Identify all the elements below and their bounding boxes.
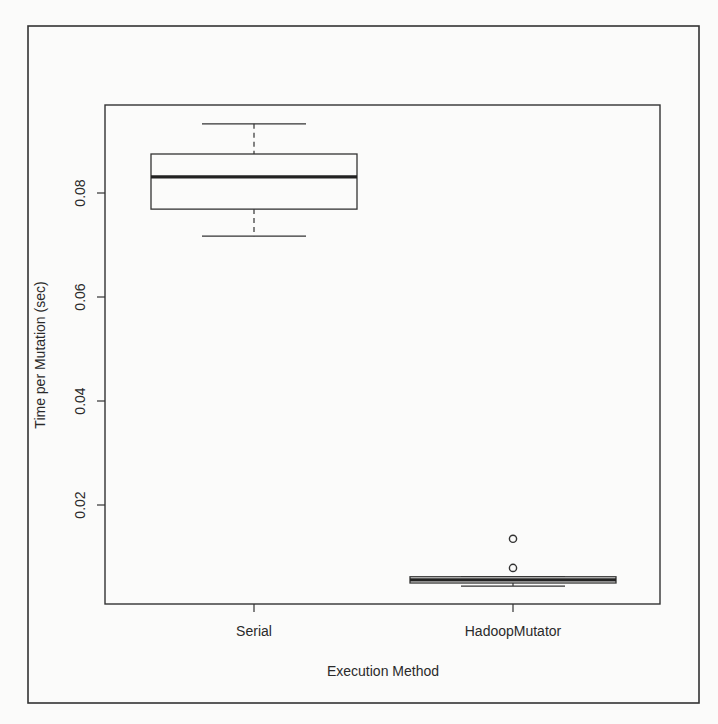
x-tick-label: Serial: [236, 623, 272, 639]
y-tick-label: 0.06: [72, 283, 88, 310]
outer-frame: [28, 26, 699, 703]
iqr-box: [151, 154, 357, 209]
x-tick-label: HadoopMutator: [465, 623, 562, 639]
outlier-point: [509, 564, 516, 571]
y-tick-label: 0.08: [72, 179, 88, 206]
y-axis: 0.020.040.060.08: [72, 179, 105, 518]
y-tick-label: 0.02: [72, 491, 88, 518]
boxplot-figure: 0.020.040.060.08 SerialHadoopMutator Exe…: [0, 0, 718, 724]
box-hadoopmutator: [410, 535, 616, 586]
y-axis-label: Time per Mutation (sec): [32, 281, 48, 428]
x-axis: SerialHadoopMutator: [236, 604, 561, 639]
outlier-point: [509, 535, 516, 542]
boxes: [151, 124, 616, 586]
x-axis-label: Execution Method: [327, 663, 439, 679]
box-serial: [151, 124, 357, 236]
y-tick-label: 0.04: [72, 387, 88, 414]
